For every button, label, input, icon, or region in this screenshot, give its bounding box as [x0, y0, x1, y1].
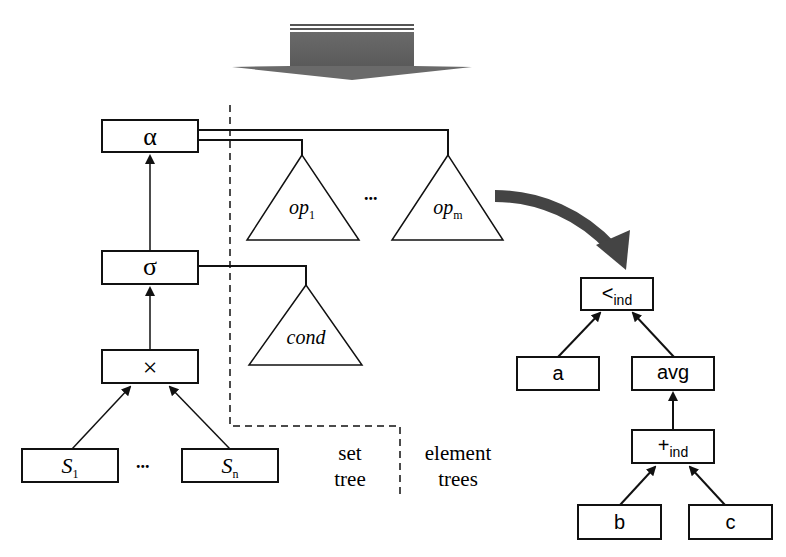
lt-ind-label: <ind	[581, 280, 653, 313]
op1-sub: 1	[309, 208, 315, 222]
element-trees-line1: element	[408, 440, 508, 466]
opm-label: opm	[408, 196, 488, 223]
s1-label: S1	[22, 449, 118, 491]
element-trees-line2: trees	[408, 466, 508, 492]
s1-sub: 1	[73, 467, 79, 481]
s1-base: S	[62, 453, 73, 478]
s-ellipsis: ...	[136, 452, 150, 473]
b-label: b	[578, 507, 661, 537]
op-ellipsis: ...	[364, 184, 378, 205]
sigma-label: σ	[102, 251, 198, 283]
op1-label: op1	[262, 196, 342, 223]
c-label: c	[689, 507, 772, 537]
curved-arrow-icon	[495, 196, 630, 270]
a-label: a	[517, 358, 599, 388]
sn-sub: n	[233, 467, 239, 481]
sn-base: S	[222, 453, 233, 478]
plus-base: +	[658, 434, 670, 456]
op1-base: op	[289, 196, 309, 218]
opm-sub: m	[453, 208, 462, 222]
lt-sub: ind	[614, 292, 633, 308]
plus-sub: ind	[670, 444, 689, 460]
set-tree-label: settree	[320, 440, 380, 492]
set-tree-line2: tree	[320, 466, 380, 492]
cond-label: cond	[266, 326, 346, 349]
lt-base: <	[602, 282, 614, 304]
element-trees-label: elementtrees	[408, 440, 508, 492]
set-tree-line1: set	[320, 440, 380, 466]
avg-label: avg	[632, 357, 714, 387]
opm-base: op	[433, 196, 453, 218]
alpha-label: α	[102, 121, 198, 153]
triangle-cond	[249, 285, 362, 365]
plus-ind-label: +ind	[632, 432, 714, 465]
cross-label: ×	[102, 352, 198, 384]
big-down-arrow-icon	[232, 24, 472, 80]
sn-label: Sn	[182, 449, 278, 491]
